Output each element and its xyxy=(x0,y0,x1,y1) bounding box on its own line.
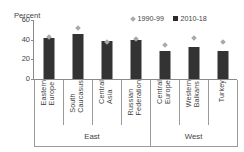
grid-separator xyxy=(179,80,180,125)
marker-1990-99[interactable] xyxy=(220,39,226,45)
category-label-box: Western Balkans xyxy=(179,80,208,125)
category-label: Eastern Europe xyxy=(40,80,57,105)
group-label-band: EastWest xyxy=(33,125,238,147)
bar-slot xyxy=(63,20,92,79)
category-label-band: Eastern EuropeSouth CaucasusCentral Asia… xyxy=(33,80,238,125)
category-label-box: Russian Federation xyxy=(121,80,150,125)
grid-separator xyxy=(34,80,35,125)
y-axis-tick-label: 0 xyxy=(26,75,30,83)
marker-1990-99[interactable] xyxy=(191,35,197,41)
bar-2010-18[interactable] xyxy=(188,47,199,79)
bar-slot xyxy=(34,20,63,79)
y-axis-tick-label: 60 xyxy=(22,16,30,24)
chart-figure: Percent 1990-99 2010-18 0204060 Eastern … xyxy=(0,0,244,152)
category-label: Russian Federation xyxy=(127,80,144,115)
bars-layer xyxy=(34,20,237,79)
category-label: Central Europe xyxy=(156,80,173,104)
category-label: Central Asia xyxy=(98,80,115,104)
category-label: South Caucasus xyxy=(69,80,86,113)
category-label: Turkey xyxy=(218,80,226,102)
y-axis-tick-mark xyxy=(31,20,34,21)
grid-separator xyxy=(150,125,151,147)
marker-1990-99[interactable] xyxy=(75,25,81,31)
bar-2010-18[interactable] xyxy=(43,38,54,79)
grid-separator xyxy=(34,146,237,147)
plot-area: 0204060 xyxy=(33,20,237,79)
grid-separator xyxy=(237,80,238,125)
marker-1990-99[interactable] xyxy=(162,42,168,48)
grid-separator xyxy=(121,80,122,125)
category-label: Western Balkans xyxy=(185,80,202,107)
grid-separator xyxy=(63,80,64,125)
bar-2010-18[interactable] xyxy=(101,41,112,79)
grid-separator xyxy=(34,125,35,147)
bar-2010-18[interactable] xyxy=(217,51,228,79)
bar-2010-18[interactable] xyxy=(159,51,170,79)
bar-slot xyxy=(150,20,179,79)
category-label-box: South Caucasus xyxy=(63,80,92,125)
grid-separator xyxy=(150,80,151,125)
bar-slot xyxy=(92,20,121,79)
category-label-box: Eastern Europe xyxy=(34,80,63,125)
y-axis-tick-mark xyxy=(31,40,34,41)
y-axis-tick-mark xyxy=(31,59,34,60)
group-label-east: East xyxy=(34,125,150,147)
category-label-box: Turkey xyxy=(208,80,237,125)
bar-slot xyxy=(179,20,208,79)
bar-2010-18[interactable] xyxy=(72,34,83,79)
category-label-box: Central Asia xyxy=(92,80,121,125)
grid-separator xyxy=(208,80,209,125)
bar-2010-18[interactable] xyxy=(130,40,141,79)
y-axis-tick-label: 40 xyxy=(22,36,30,44)
y-axis-tick-label: 20 xyxy=(22,56,30,64)
grid-separator xyxy=(237,125,238,147)
category-label-box: Central Europe xyxy=(150,80,179,125)
bar-slot xyxy=(121,20,150,79)
group-label-west: West xyxy=(150,125,237,147)
bar-slot xyxy=(208,20,237,79)
grid-separator xyxy=(92,80,93,125)
